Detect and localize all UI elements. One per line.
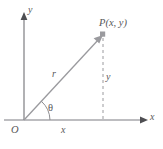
y-axis-label: y: [28, 5, 32, 15]
angle-label: θ: [48, 103, 53, 114]
y-axis-arrowhead-icon: [21, 12, 28, 20]
side-y-label: y: [106, 72, 110, 82]
x-axis-arrowhead-icon: [140, 117, 148, 124]
x-axis-label: x: [150, 112, 154, 122]
square-point-marker: [100, 32, 105, 37]
radius-label: r: [52, 69, 56, 79]
side-x-label: x: [61, 125, 65, 135]
diagram-canvas: [0, 0, 163, 149]
coordinate-diagram: y x O P(x, y) r θ x y: [0, 0, 163, 149]
point-label: P(x, y): [99, 18, 127, 29]
radius-vector-line: [24, 39, 99, 120]
origin-label: O: [11, 125, 19, 136]
